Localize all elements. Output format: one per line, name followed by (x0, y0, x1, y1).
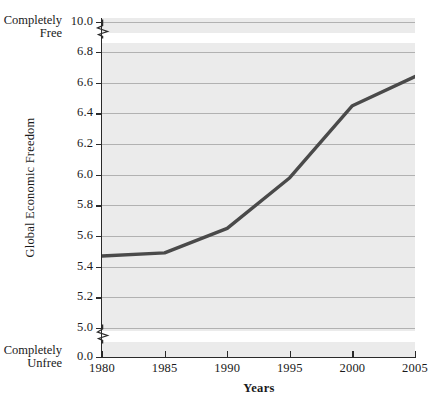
y-axis-tick (96, 113, 102, 114)
y-axis-tick-label: 5.8 (33, 198, 93, 211)
y-axis-tick-label: 6.0 (33, 168, 93, 181)
x-axis-title: Years (102, 381, 416, 396)
x-axis-tick-label: 2005 (385, 361, 441, 375)
x-axis-tick (352, 351, 353, 358)
x-axis-tick (165, 351, 166, 358)
x-axis-tick (290, 351, 291, 358)
y-axis-tick (96, 83, 102, 84)
y-axis-tick (96, 205, 102, 206)
axis-break-icon-bottom (94, 324, 112, 344)
y-axis-tick (96, 144, 102, 145)
annotation-completely-free: Completely Free (0, 14, 62, 39)
annotation-completely-unfree: Completely Unfree (0, 344, 62, 369)
y-axis-tick (96, 52, 102, 53)
x-axis-tick (227, 351, 228, 358)
x-axis-line (102, 357, 416, 358)
y-axis-line (101, 18, 102, 358)
y-axis-tick (96, 297, 102, 298)
axis-break-icon-top (94, 19, 112, 39)
y-axis-tick-label: 6.6 (33, 76, 93, 89)
y-axis-tick-label: 5.6 (33, 229, 93, 242)
y-axis-tick-label: 5.4 (33, 260, 93, 273)
y-axis-tick (96, 236, 102, 237)
y-axis-tick (96, 175, 102, 176)
annotation-completely-free-line2: Free (0, 27, 62, 40)
x-axis-tick-label: 1995 (260, 361, 320, 375)
x-axis-tick-label: 1990 (197, 361, 257, 375)
plot-area (102, 18, 415, 358)
x-axis-tick (102, 351, 103, 358)
economic-freedom-line-chart: 10.06.86.66.46.26.05.85.65.45.25.00.0 19… (0, 0, 441, 412)
y-axis-tick-label: 6.8 (33, 45, 93, 58)
annotation-completely-free-line1: Completely (0, 14, 62, 27)
y-axis-tick (96, 267, 102, 268)
y-axis-tick-label: 5.0 (33, 321, 93, 334)
annotation-completely-unfree-line2: Unfree (0, 357, 62, 370)
x-axis-tick-label: 1980 (72, 361, 132, 375)
y-axis-tick-label: 6.2 (33, 137, 93, 150)
y-axis-tick-label: 5.2 (33, 290, 93, 303)
x-axis-tick-label: 2000 (322, 361, 382, 375)
y-axis-tick-label: 6.4 (33, 106, 93, 119)
x-axis-tick-label: 1985 (135, 361, 195, 375)
y-axis-title: Global Economic Freedom (23, 88, 38, 288)
annotation-completely-unfree-line1: Completely (0, 344, 62, 357)
series-line-global-economic-freedom (102, 18, 415, 358)
x-axis-tick (415, 351, 416, 358)
